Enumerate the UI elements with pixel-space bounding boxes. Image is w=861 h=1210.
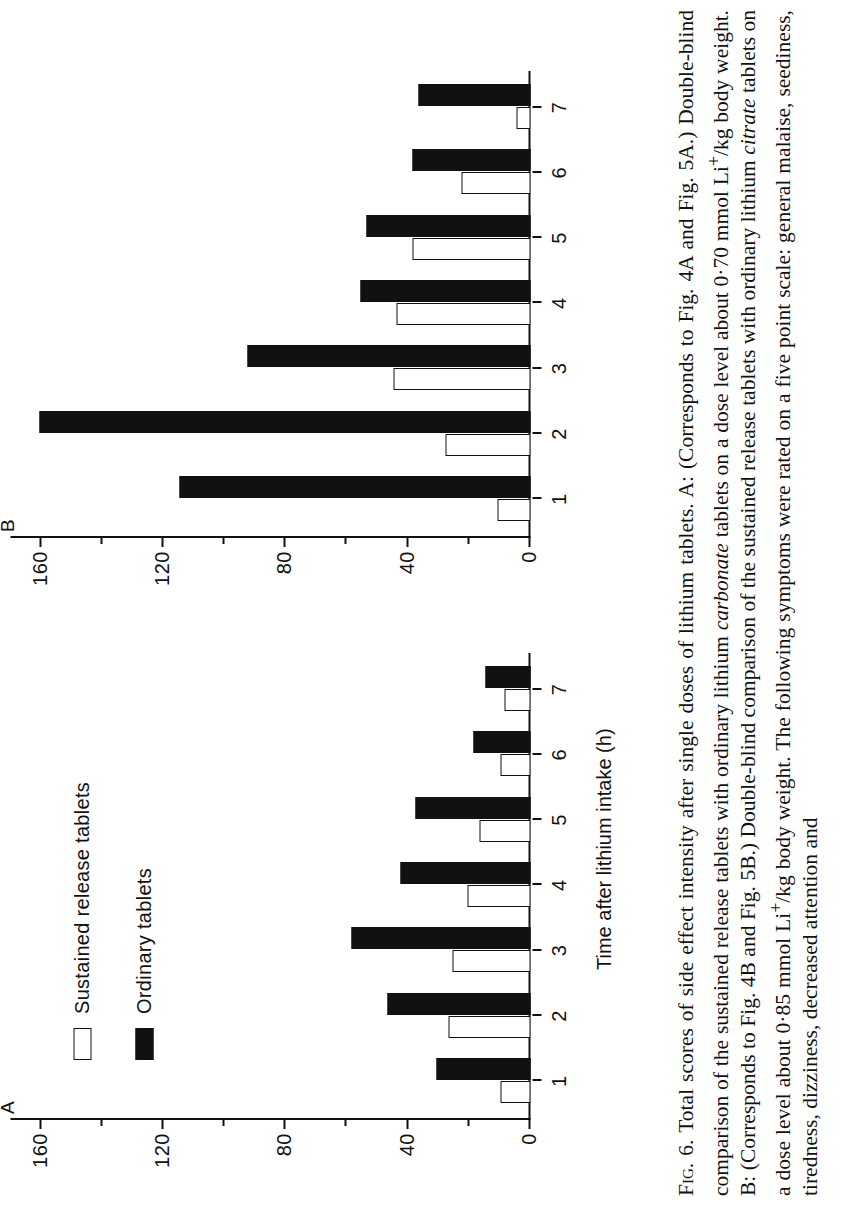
chart-legend: Sustained release tabletsOrdinary tablet… xyxy=(70,720,190,1060)
y-tick-label: 120 xyxy=(150,1133,173,1168)
legend-swatch-black xyxy=(135,1028,153,1060)
y-tick-label: 40 xyxy=(395,1133,418,1156)
bar-b-h6-ordinary xyxy=(412,149,530,171)
x-tick-3 xyxy=(532,367,541,369)
y-tick-minor-140 xyxy=(100,1120,102,1126)
bar-a-h7-ordinary xyxy=(485,666,530,688)
x-tick-1 xyxy=(532,497,541,499)
y-tick-0: 0 xyxy=(528,538,530,547)
caption-superscript: + xyxy=(765,903,785,913)
x-tick-2 xyxy=(532,1014,541,1016)
caption-text: 70 mmol Li xyxy=(708,166,732,268)
x-tick-label: 7 xyxy=(547,684,570,695)
y-tick-minor-60 xyxy=(344,1120,346,1126)
y-tick-minor-60 xyxy=(344,538,346,544)
x-tick-4 xyxy=(532,302,541,304)
y-tick-80: 80 xyxy=(283,538,285,547)
bar-a-h4-sustained xyxy=(467,885,530,907)
y-tick-label: 120 xyxy=(150,551,173,586)
y-tick-minor-100 xyxy=(222,538,224,544)
y-tick-120: 120 xyxy=(161,1120,163,1129)
bar-a-h1-ordinary xyxy=(436,1058,530,1080)
bar-a-h7-sustained xyxy=(504,689,530,711)
bar-b-h6-sustained xyxy=(461,172,530,194)
x-tick-1 xyxy=(532,1079,541,1081)
y-tick-label: 160 xyxy=(28,1133,51,1168)
caption-text: 85 mmol Li xyxy=(770,913,794,1016)
y-tick-label: 0 xyxy=(517,1133,540,1145)
caption-text: · xyxy=(770,1016,794,1023)
x-tick-label: 3 xyxy=(547,363,570,374)
y-tick-label: 160 xyxy=(28,551,51,586)
x-tick-4 xyxy=(532,884,541,886)
y-tick-minor-20 xyxy=(467,538,469,544)
x-tick-label: 4 xyxy=(547,880,570,891)
caption-superscript: + xyxy=(703,156,723,166)
y-tick-minor-140 xyxy=(100,538,102,544)
caption-emphasis: citrate xyxy=(735,99,759,155)
x-tick-label: 3 xyxy=(547,945,570,956)
figure-page: A 040801201601234567 B 04080120160123456… xyxy=(0,0,861,1210)
x-tick-label: 5 xyxy=(547,815,570,826)
bar-b-h1-ordinary xyxy=(179,476,530,498)
bar-a-h2-ordinary xyxy=(387,993,530,1015)
x-tick-label: 1 xyxy=(547,1076,570,1087)
x-tick-label: 6 xyxy=(547,167,570,178)
y-tick-40: 40 xyxy=(406,538,408,547)
panel-b: B 040801201601234567 xyxy=(0,65,600,610)
figure-caption: Fig. 6. Total scores of side effect inte… xyxy=(672,10,824,1196)
bar-a-h4-ordinary xyxy=(400,862,530,884)
y-tick-0: 0 xyxy=(528,1120,530,1129)
bar-b-h3-sustained xyxy=(393,368,530,390)
x-axis-title: Time after lithium intake (h) xyxy=(592,728,615,970)
panel-a-y-axis xyxy=(10,1118,530,1120)
bar-a-h6-ordinary xyxy=(473,731,530,753)
x-tick-2 xyxy=(532,432,541,434)
y-tick-label: 80 xyxy=(272,1133,295,1156)
bar-a-h6-sustained xyxy=(500,754,530,776)
bar-a-h3-ordinary xyxy=(351,927,530,949)
y-tick-160: 160 xyxy=(39,1120,41,1129)
bar-b-h3-ordinary xyxy=(247,345,530,367)
caption-text: tablets on a dose level about 0 xyxy=(708,276,732,543)
rotated-page-content: A 040801201601234567 B 04080120160123456… xyxy=(0,0,861,1210)
y-tick-minor-20 xyxy=(467,1120,469,1126)
x-tick-label: 2 xyxy=(547,429,570,440)
x-tick-6 xyxy=(532,753,541,755)
legend-item-ordinary: Ordinary tablets xyxy=(132,868,155,1060)
x-tick-label: 1 xyxy=(547,494,570,505)
bar-b-h2-sustained xyxy=(445,434,530,456)
panel-b-y-axis xyxy=(10,536,530,538)
bar-a-h5-sustained xyxy=(479,820,530,842)
x-tick-7 xyxy=(532,688,541,690)
bar-b-h5-sustained xyxy=(412,238,530,260)
bar-b-h4-ordinary xyxy=(360,280,530,302)
legend-label: Sustained release tablets xyxy=(70,782,93,1014)
x-tick-label: 2 xyxy=(547,1011,570,1022)
bar-b-h7-sustained xyxy=(516,107,530,129)
x-tick-6 xyxy=(532,171,541,173)
bar-b-h1-sustained xyxy=(497,499,530,521)
y-tick-120: 120 xyxy=(161,538,163,547)
panel-b-plot-area: 040801201601234567 xyxy=(10,71,530,538)
bar-b-h7-ordinary xyxy=(418,84,530,106)
bar-b-h5-ordinary xyxy=(366,215,530,237)
x-tick-label: 6 xyxy=(547,749,570,760)
x-tick-7 xyxy=(532,106,541,108)
y-tick-80: 80 xyxy=(283,1120,285,1129)
caption-text: · xyxy=(708,268,732,275)
y-tick-label: 80 xyxy=(272,551,295,574)
x-tick-label: 5 xyxy=(547,233,570,244)
y-tick-label: 0 xyxy=(517,551,540,563)
bar-a-h5-ordinary xyxy=(415,797,530,819)
bar-a-h3-sustained xyxy=(452,950,530,972)
bar-a-h1-sustained xyxy=(500,1081,530,1103)
legend-swatch-white xyxy=(73,1028,91,1060)
x-tick-label: 4 xyxy=(547,298,570,309)
y-tick-160: 160 xyxy=(39,538,41,547)
figure-graphics: A 040801201601234567 B 04080120160123456… xyxy=(0,0,640,1210)
y-tick-minor-100 xyxy=(222,1120,224,1126)
caption-emphasis: carbonate xyxy=(708,543,732,630)
bar-a-h2-sustained xyxy=(448,1016,530,1038)
y-tick-label: 40 xyxy=(395,551,418,574)
